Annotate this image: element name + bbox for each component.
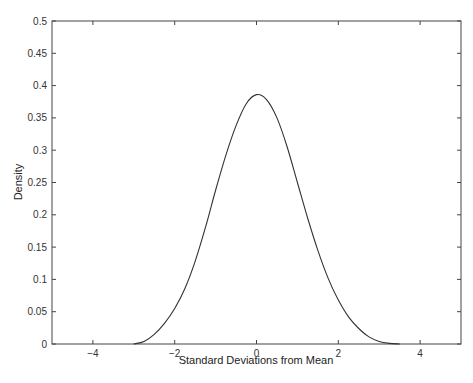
y-tick-label: 0.2 (33, 209, 47, 220)
y-axis-label: Density (12, 163, 24, 200)
y-tick-label: 0.05 (28, 306, 48, 317)
x-tick-label: −4 (87, 348, 99, 359)
y-tick-label: 0.35 (28, 112, 48, 123)
density-chart: −4−2024 00.050.10.150.20.250.30.350.40.4… (0, 0, 473, 383)
y-tick-label: 0.45 (28, 48, 48, 59)
axes-frame (52, 21, 461, 344)
x-axis-label: Standard Deviations from Mean (179, 354, 334, 366)
y-tick-label: 0.5 (33, 16, 47, 27)
x-tick-label: 4 (417, 348, 423, 359)
y-tick-label: 0 (41, 339, 47, 350)
x-axis-ticks: −4−2024 (87, 21, 423, 359)
y-tick-label: 0.25 (28, 177, 48, 188)
y-tick-label: 0.4 (33, 80, 47, 91)
x-tick-label: 2 (336, 348, 342, 359)
y-axis-ticks: 00.050.10.150.20.250.30.350.40.450.5 (28, 16, 461, 350)
y-tick-label: 0.3 (33, 145, 47, 156)
density-curve (134, 95, 400, 344)
y-tick-label: 0.15 (28, 242, 48, 253)
y-tick-label: 0.1 (33, 274, 47, 285)
plot-area (52, 21, 461, 344)
